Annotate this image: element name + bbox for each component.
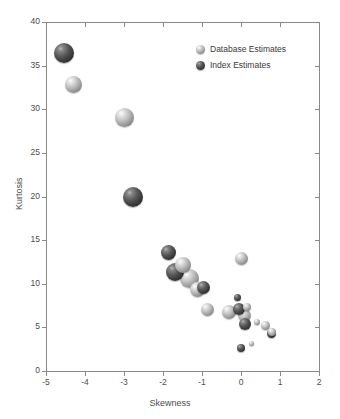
y-tick-mark <box>42 153 46 154</box>
data-point <box>249 341 254 346</box>
x-tick-mark <box>163 372 164 376</box>
data-point <box>239 318 251 330</box>
x-tick-label: -4 <box>70 377 100 387</box>
data-point <box>161 245 176 260</box>
data-point <box>201 303 214 316</box>
y-tick-label: 20 <box>8 191 40 201</box>
data-point <box>115 108 134 127</box>
y-tick-mark-right <box>315 327 319 328</box>
plot-border-top <box>46 22 320 23</box>
x-tick-mark <box>85 372 86 376</box>
y-tick-label: 40 <box>8 16 40 26</box>
y-tick-mark <box>42 197 46 198</box>
x-tick-label: 2 <box>304 377 334 387</box>
legend-item[interactable]: Index Estimates <box>196 58 286 72</box>
x-tick-label: -3 <box>109 377 139 387</box>
x-tick-label: -2 <box>148 377 178 387</box>
data-point <box>235 252 248 265</box>
x-tick-mark-top <box>280 23 281 27</box>
legend-label: Database Estimates <box>210 44 286 54</box>
y-tick-mark-right <box>315 153 319 154</box>
x-tick-mark-top <box>85 23 86 27</box>
y-tick-label: 5 <box>8 321 40 331</box>
y-tick-mark <box>42 66 46 67</box>
y-tick-mark-right <box>315 66 319 67</box>
y-tick-mark-right <box>315 284 319 285</box>
chart-legend: Database EstimatesIndex Estimates <box>196 42 286 74</box>
y-tick-mark <box>42 327 46 328</box>
y-tick-mark-right <box>315 240 319 241</box>
x-tick-mark-top <box>46 23 47 27</box>
x-tick-mark <box>241 372 242 376</box>
x-tick-mark-top <box>163 23 164 27</box>
y-tick-label: 0 <box>8 365 40 375</box>
y-tick-label: 30 <box>8 103 40 113</box>
y-axis-line <box>46 22 47 372</box>
y-tick-mark <box>42 284 46 285</box>
data-point <box>65 76 82 93</box>
scatter-chart: 0510152025303540 -5-4-3-2-1012 Kurtosis … <box>0 0 340 419</box>
plot-border-right <box>319 22 320 372</box>
legend-item[interactable]: Database Estimates <box>196 42 286 56</box>
x-tick-mark-top <box>319 23 320 27</box>
y-tick-label: 25 <box>8 147 40 157</box>
y-tick-label: 15 <box>8 234 40 244</box>
x-tick-mark <box>280 372 281 376</box>
x-tick-label: 1 <box>265 377 295 387</box>
data-point <box>234 294 241 301</box>
x-tick-mark <box>202 372 203 376</box>
data-point <box>243 303 251 311</box>
y-tick-mark-right <box>315 197 319 198</box>
x-tick-mark <box>46 372 47 376</box>
x-tick-mark-top <box>124 23 125 27</box>
x-tick-label: 0 <box>226 377 256 387</box>
data-point <box>268 328 276 336</box>
x-tick-label: -5 <box>31 377 61 387</box>
y-tick-mark-right <box>315 109 319 110</box>
data-point <box>123 187 143 207</box>
y-tick-label: 35 <box>8 60 40 70</box>
x-tick-mark <box>319 372 320 376</box>
y-axis-title: Kurtosis <box>14 177 24 210</box>
x-tick-mark-top <box>202 23 203 27</box>
x-tick-mark <box>124 372 125 376</box>
data-point <box>237 344 245 352</box>
data-point <box>54 43 74 63</box>
data-point <box>197 281 210 294</box>
x-tick-mark-top <box>241 23 242 27</box>
light-sphere-marker <box>196 45 205 54</box>
y-tick-label: 10 <box>8 278 40 288</box>
dark-sphere-marker <box>196 61 205 70</box>
x-tick-label: -1 <box>187 377 217 387</box>
y-tick-mark <box>42 109 46 110</box>
x-axis-title: Skewness <box>0 398 340 408</box>
y-tick-mark <box>42 240 46 241</box>
x-axis-line <box>46 371 320 372</box>
legend-label: Index Estimates <box>210 60 270 70</box>
data-point <box>254 319 260 325</box>
